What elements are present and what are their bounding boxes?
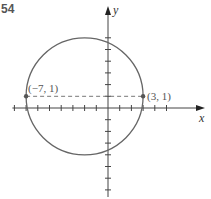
point-label: (3, 1) xyxy=(147,90,171,103)
point-label: (−7, 1) xyxy=(28,82,58,95)
point-marker xyxy=(24,94,28,98)
point-marker xyxy=(141,94,145,98)
coordinate-diagram: (−7, 1)(3, 1) x y xyxy=(0,0,211,199)
x-axis-label: x xyxy=(198,111,205,125)
y-axis-label: y xyxy=(112,3,119,17)
y-axis-arrow-icon xyxy=(105,6,111,15)
tick-marks xyxy=(14,38,166,190)
